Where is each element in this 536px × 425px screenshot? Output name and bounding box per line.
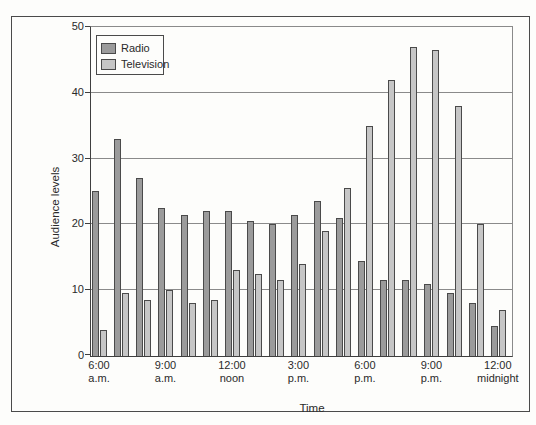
bar-television-10-00-a-m-	[189, 303, 196, 356]
bar-radio-5-00-p-m-	[336, 218, 343, 356]
bar-radio-10-00-p-m-	[447, 293, 454, 356]
bar-radio-11-00-p-m-	[469, 303, 476, 356]
plot-area	[90, 26, 513, 357]
legend: Radio Television	[96, 35, 164, 75]
bar-television-5-00-p-m-	[344, 188, 351, 356]
gridline-20	[91, 223, 512, 224]
radio-swatch	[101, 43, 116, 54]
bar-television-9-00-a-m-	[166, 290, 173, 356]
bar-television-1-00-p-m-	[255, 274, 262, 356]
y-axis-tick-20	[85, 223, 90, 224]
y-tick-label-40: 40	[58, 86, 84, 98]
bar-television-10-00-p-m-	[455, 106, 462, 356]
bar-radio-8-00-p-m-	[402, 280, 409, 356]
gridline-40	[91, 92, 512, 93]
television-swatch	[101, 59, 116, 70]
legend-item-television: Television	[101, 56, 163, 72]
bar-radio-7-00-p-m-	[380, 280, 387, 356]
bar-radio-1-00-p-m-	[247, 221, 254, 356]
bar-television-3-00-p-m-	[299, 264, 306, 356]
bar-radio-9-00-a-m-	[158, 208, 165, 356]
y-tick-label-30: 30	[58, 152, 84, 164]
bar-radio-2-00-p-m-	[269, 224, 276, 356]
bar-television-8-00-a-m-	[144, 300, 151, 356]
bar-radio-12-00-midnight	[491, 326, 498, 356]
x-tick-label-line: midnight	[456, 372, 536, 385]
bar-television-6-00-a-m-	[100, 330, 107, 356]
bar-radio-6-00-p-m-	[358, 261, 365, 356]
x-tick-label-1200-midnight: 12:00midnight	[456, 359, 536, 385]
bar-television-9-00-p-m-	[432, 50, 439, 356]
y-axis-title: Audience levels	[49, 167, 61, 248]
bar-radio-8-00-a-m-	[136, 178, 143, 356]
bar-radio-6-00-a-m-	[92, 191, 99, 356]
bar-television-2-00-p-m-	[277, 280, 284, 356]
bar-television-7-00-a-m-	[122, 293, 129, 356]
bar-radio-9-00-p-m-	[424, 284, 431, 356]
y-tick-label-20: 20	[58, 217, 84, 229]
y-tick-label-10: 10	[58, 283, 84, 295]
bar-television-12-00-midnight	[499, 310, 506, 356]
bar-television-11-00-a-m-	[211, 300, 218, 356]
bar-television-6-00-p-m-	[366, 126, 373, 356]
legend-item-radio: Radio	[101, 40, 163, 56]
y-axis-tick-0	[85, 354, 90, 355]
bar-television-12-00-noon	[233, 270, 240, 356]
bar-radio-3-00-p-m-	[291, 215, 298, 356]
bar-radio-4-00-p-m-	[314, 201, 321, 356]
y-axis-tick-30	[85, 158, 90, 159]
y-axis-tick-40	[85, 92, 90, 93]
legend-label-radio: Radio	[121, 42, 150, 54]
x-axis-title: Time	[202, 402, 422, 414]
y-axis-tick-10	[85, 289, 90, 290]
bar-radio-12-00-noon	[225, 211, 232, 356]
bar-radio-11-00-a-m-	[203, 211, 210, 356]
bar-television-7-00-p-m-	[388, 80, 395, 356]
y-axis-tick-50	[85, 26, 90, 27]
x-tick-label-line: 12:00	[456, 359, 536, 372]
bar-radio-10-00-a-m-	[181, 215, 188, 356]
bar-television-8-00-p-m-	[410, 47, 417, 356]
gridline-30	[91, 158, 512, 159]
bar-television-4-00-p-m-	[322, 231, 329, 356]
bar-radio-7-00-a-m-	[114, 139, 121, 356]
y-tick-label-50: 50	[58, 20, 84, 32]
legend-label-television: Television	[121, 58, 169, 70]
bar-television-11-00-p-m-	[477, 224, 484, 356]
